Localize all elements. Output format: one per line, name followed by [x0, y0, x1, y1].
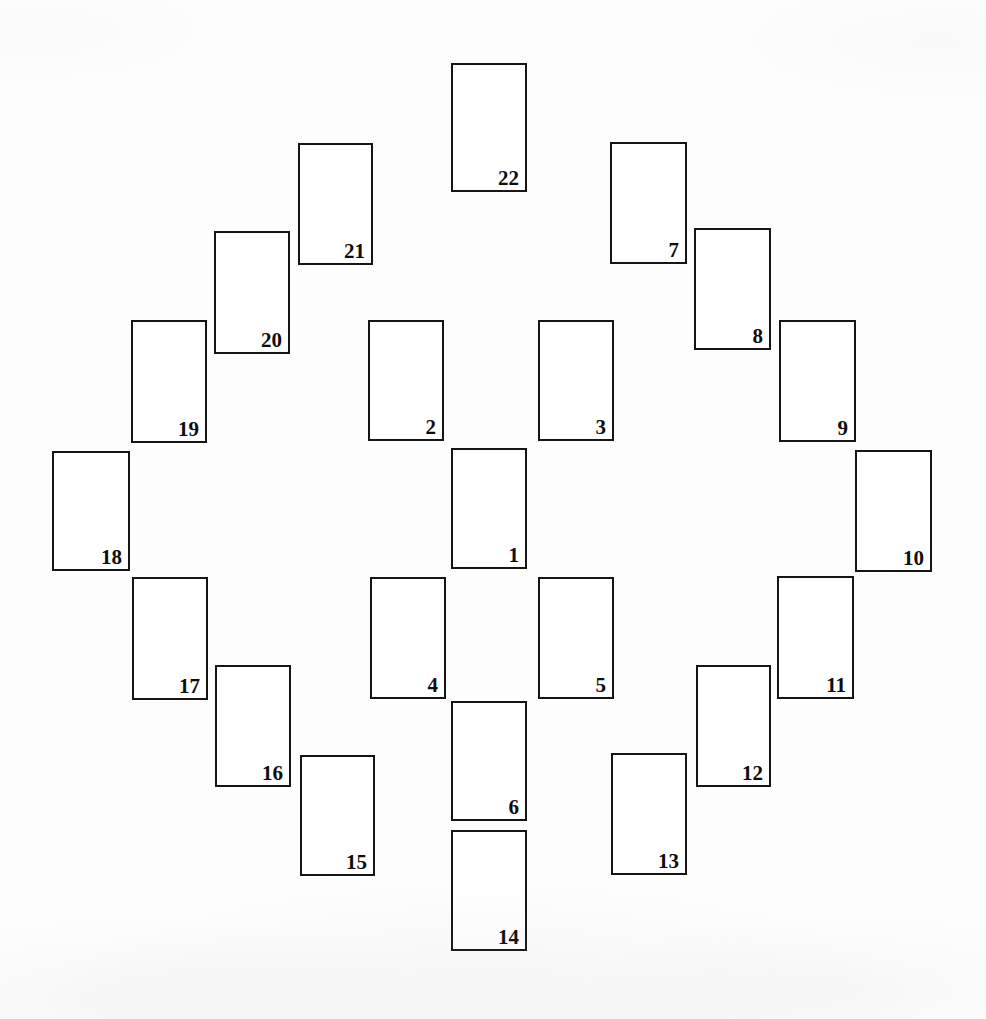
card-label: 1: [509, 545, 520, 566]
card-label: 15: [346, 852, 367, 873]
card-rectangle-8[interactable]: 8: [694, 228, 771, 350]
card-label: 12: [742, 763, 763, 784]
card-rectangle-5[interactable]: 5: [538, 577, 614, 699]
card-label: 13: [658, 851, 679, 872]
card-label: 6: [509, 797, 520, 818]
card-label: 18: [101, 547, 122, 568]
card-label: 19: [178, 419, 199, 440]
card-label: 14: [498, 927, 519, 948]
card-rectangle-19[interactable]: 19: [131, 320, 207, 443]
card-label: 22: [498, 168, 519, 189]
card-label: 17: [179, 676, 200, 697]
card-rectangle-18[interactable]: 18: [52, 451, 130, 571]
card-label: 7: [669, 240, 680, 261]
card-label: 20: [261, 330, 282, 351]
card-rectangle-14[interactable]: 14: [451, 830, 527, 951]
card-rectangle-9[interactable]: 9: [779, 320, 856, 442]
card-rectangle-2[interactable]: 2: [368, 320, 444, 441]
card-rectangle-7[interactable]: 7: [610, 142, 687, 264]
card-rectangle-20[interactable]: 20: [214, 231, 290, 354]
card-rectangle-13[interactable]: 13: [611, 753, 687, 875]
diagram-canvas: 12345678910111213141516171819202122: [0, 0, 986, 1019]
card-label: 11: [826, 675, 846, 696]
card-rectangle-1[interactable]: 1: [451, 448, 527, 569]
card-label: 9: [838, 418, 849, 439]
card-label: 2: [426, 417, 437, 438]
card-rectangle-3[interactable]: 3: [538, 320, 614, 441]
card-label: 3: [596, 417, 607, 438]
card-rectangle-22[interactable]: 22: [451, 63, 527, 192]
card-label: 8: [753, 326, 764, 347]
card-label: 4: [428, 675, 439, 696]
card-rectangle-12[interactable]: 12: [696, 665, 771, 787]
card-rectangle-16[interactable]: 16: [215, 665, 291, 787]
card-rectangle-11[interactable]: 11: [777, 576, 854, 699]
card-rectangle-17[interactable]: 17: [132, 577, 208, 700]
card-label: 16: [262, 763, 283, 784]
card-label: 10: [903, 548, 924, 569]
card-label: 21: [344, 241, 365, 262]
card-rectangle-4[interactable]: 4: [370, 577, 446, 699]
card-rectangle-6[interactable]: 6: [451, 701, 527, 821]
card-rectangle-15[interactable]: 15: [300, 755, 375, 876]
card-label: 5: [596, 675, 607, 696]
card-rectangle-10[interactable]: 10: [855, 450, 932, 572]
card-rectangle-21[interactable]: 21: [298, 143, 373, 265]
